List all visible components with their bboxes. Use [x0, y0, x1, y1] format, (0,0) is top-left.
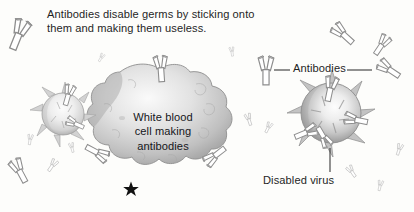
- wbc-label-line-3: antibodies: [137, 140, 189, 152]
- antibody-illustration: Antibodies disable germs by sticking ont…: [0, 0, 414, 212]
- free-antibody-14: [97, 53, 105, 63]
- free-antibody-2: [7, 156, 31, 185]
- free-antibody-10: [394, 143, 404, 156]
- free-antibody-9: [371, 33, 393, 58]
- figure-caption: Antibodies disable germs by sticking ont…: [47, 7, 255, 35]
- free-antibody-1: [5, 17, 32, 52]
- disabled-virus-label: Disabled virus: [263, 174, 334, 186]
- star-marker-icon: [123, 182, 139, 197]
- free-antibody-5: [68, 142, 76, 153]
- caption-line-2: them and making them useless.: [47, 22, 207, 34]
- free-antibody-3: [46, 158, 59, 173]
- free-antibody-13: [229, 47, 235, 57]
- free-antibody-8: [329, 21, 357, 48]
- wbc-label-line-2: cell making: [135, 125, 192, 137]
- free-antibody-pointer-left: [258, 56, 274, 85]
- white-blood-cell-label: White bloodcell makingantibodies: [116, 110, 210, 153]
- virus-left: [30, 82, 96, 147]
- wbc-label-line-1: White blood: [133, 111, 193, 123]
- free-antibody-pointer-right: [375, 57, 403, 82]
- free-antibody-12: [376, 180, 384, 191]
- free-antibody-11: [345, 164, 358, 178]
- free-antibody-7: [263, 121, 273, 133]
- free-antibody-4: [26, 134, 33, 145]
- free-antibody-6: [244, 113, 254, 127]
- caption-line-1: Antibodies disable germs by sticking ont…: [47, 8, 255, 20]
- antibodies-label: Antibodies: [293, 62, 346, 74]
